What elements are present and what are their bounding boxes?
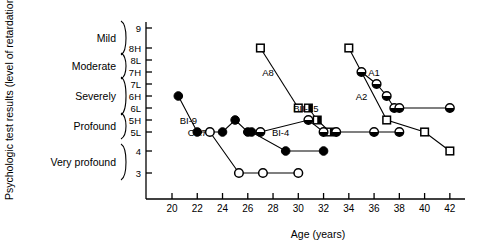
y-tick-label: 9 xyxy=(136,23,141,34)
x-tick-label: 26 xyxy=(242,203,254,214)
data-point-open-square xyxy=(383,116,391,124)
series-label: A2 xyxy=(356,91,368,102)
data-point-open-square xyxy=(345,44,353,52)
x-tick-label: 20 xyxy=(166,203,178,214)
y-tick-label: 5H xyxy=(129,115,141,126)
x-tick-label: 22 xyxy=(192,203,204,214)
x-axis-title: Age (years) xyxy=(291,228,345,240)
y-tick-label: 7H xyxy=(129,67,141,78)
y-axis-title: Psychologic test results (level of retar… xyxy=(3,0,15,200)
y-category-label: Very profound xyxy=(51,156,117,168)
data-point-open-square xyxy=(421,128,429,136)
data-point-half-circle xyxy=(372,80,381,89)
data-point-open-circle xyxy=(206,128,215,137)
y-category-label: Profound xyxy=(73,120,116,132)
data-point-filled-circle xyxy=(319,147,328,156)
data-point-filled-circle xyxy=(231,116,240,125)
data-point-open-circle xyxy=(259,169,268,178)
x-tick-label: 24 xyxy=(217,203,229,214)
data-point-open-circle xyxy=(294,169,303,178)
data-point-open-square xyxy=(257,44,265,52)
data-point-filled-circle xyxy=(281,147,290,156)
data-point-half-circle xyxy=(332,128,341,137)
y-category-label: Severely xyxy=(75,90,117,102)
y-tick-label: 6H xyxy=(129,91,141,102)
data-point-half-circle xyxy=(395,104,404,113)
x-axis-tick-labels: 202224262830323436384042 xyxy=(166,203,455,214)
data-point-filled-circle xyxy=(174,92,183,101)
x-tick-label: 40 xyxy=(419,203,431,214)
y-category-label: Mild xyxy=(97,32,116,44)
data-point-half-circle xyxy=(395,128,404,137)
series-label: BI-4 xyxy=(272,127,289,138)
x-tick-label: 38 xyxy=(394,203,406,214)
data-point-half-circle xyxy=(382,92,391,101)
data-point-open-circle xyxy=(235,169,244,178)
x-tick-label: 34 xyxy=(343,203,355,214)
y-tick-label: 6L xyxy=(130,103,141,114)
category-braces xyxy=(121,21,126,180)
data-point-half-circle xyxy=(357,68,366,77)
series-label: BII-15 xyxy=(293,103,318,114)
series-line xyxy=(260,48,298,108)
data-point-half-circle xyxy=(446,104,455,113)
data-point-half-circle xyxy=(319,128,328,137)
data-point-half-circle xyxy=(370,128,379,137)
chart-container: Psychologic test results (level of retar… xyxy=(0,0,483,247)
y-tick-label: 5L xyxy=(130,127,141,138)
scatter-chart: Psychologic test results (level of retar… xyxy=(0,0,483,247)
x-tick-label: 42 xyxy=(444,203,456,214)
y-category-label: Moderate xyxy=(72,60,117,72)
series-label: BI-9 xyxy=(180,115,197,126)
series-labels: BI-9OA7A8BII-15BI-4A1A2 xyxy=(180,67,380,138)
data-point-filled-circle xyxy=(247,128,256,137)
y-tick-label: 8H xyxy=(129,43,141,54)
x-tick-label: 30 xyxy=(293,203,305,214)
y-tick-label: 8L xyxy=(130,55,141,66)
data-point-filled-circle xyxy=(218,128,227,137)
y-tick-label: 7L xyxy=(130,79,141,90)
y-tick-label: 3 xyxy=(136,168,141,179)
y-axis xyxy=(146,22,152,199)
data-point-open-square xyxy=(446,147,454,155)
y-tick-label: 4 xyxy=(136,146,141,157)
y-category-labels: MildModerateSeverelyProfoundVery profoun… xyxy=(51,32,117,168)
series-label: A1 xyxy=(368,67,380,78)
x-tick-label: 36 xyxy=(369,203,381,214)
y-axis-tick-labels: 98H8L7H7L6H6L5H5L43 xyxy=(129,23,141,179)
data-point-half-circle xyxy=(256,128,265,137)
data-point-half-circle xyxy=(304,116,313,125)
series-label: OA7 xyxy=(188,127,207,138)
x-axis xyxy=(146,193,465,199)
data-point-half-square xyxy=(313,116,321,124)
series-label: A8 xyxy=(262,67,274,78)
x-tick-label: 32 xyxy=(318,203,330,214)
x-tick-label: 28 xyxy=(267,203,279,214)
